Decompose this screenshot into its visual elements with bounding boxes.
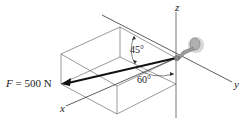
force-vector-shaft [68,58,176,83]
force-vector-diagram: F = 500 N x y z 45° 60° [0,0,250,126]
y-axis-line [102,15,232,82]
force-magnitude: 500 N [24,77,51,89]
x-axis-line [66,58,176,106]
force-equals: = [13,77,25,89]
angle-label-60: 60° [137,75,151,85]
y-axis-label: y [234,79,239,90]
diagram-canvas [0,0,250,126]
force-label: F = 500 N [6,78,52,89]
z-axis-label: z [175,2,179,13]
wall-support-icon [174,37,204,61]
angle-label-45: 45° [130,45,144,55]
force-symbol: F [6,77,13,89]
x-axis-label: x [60,103,65,114]
